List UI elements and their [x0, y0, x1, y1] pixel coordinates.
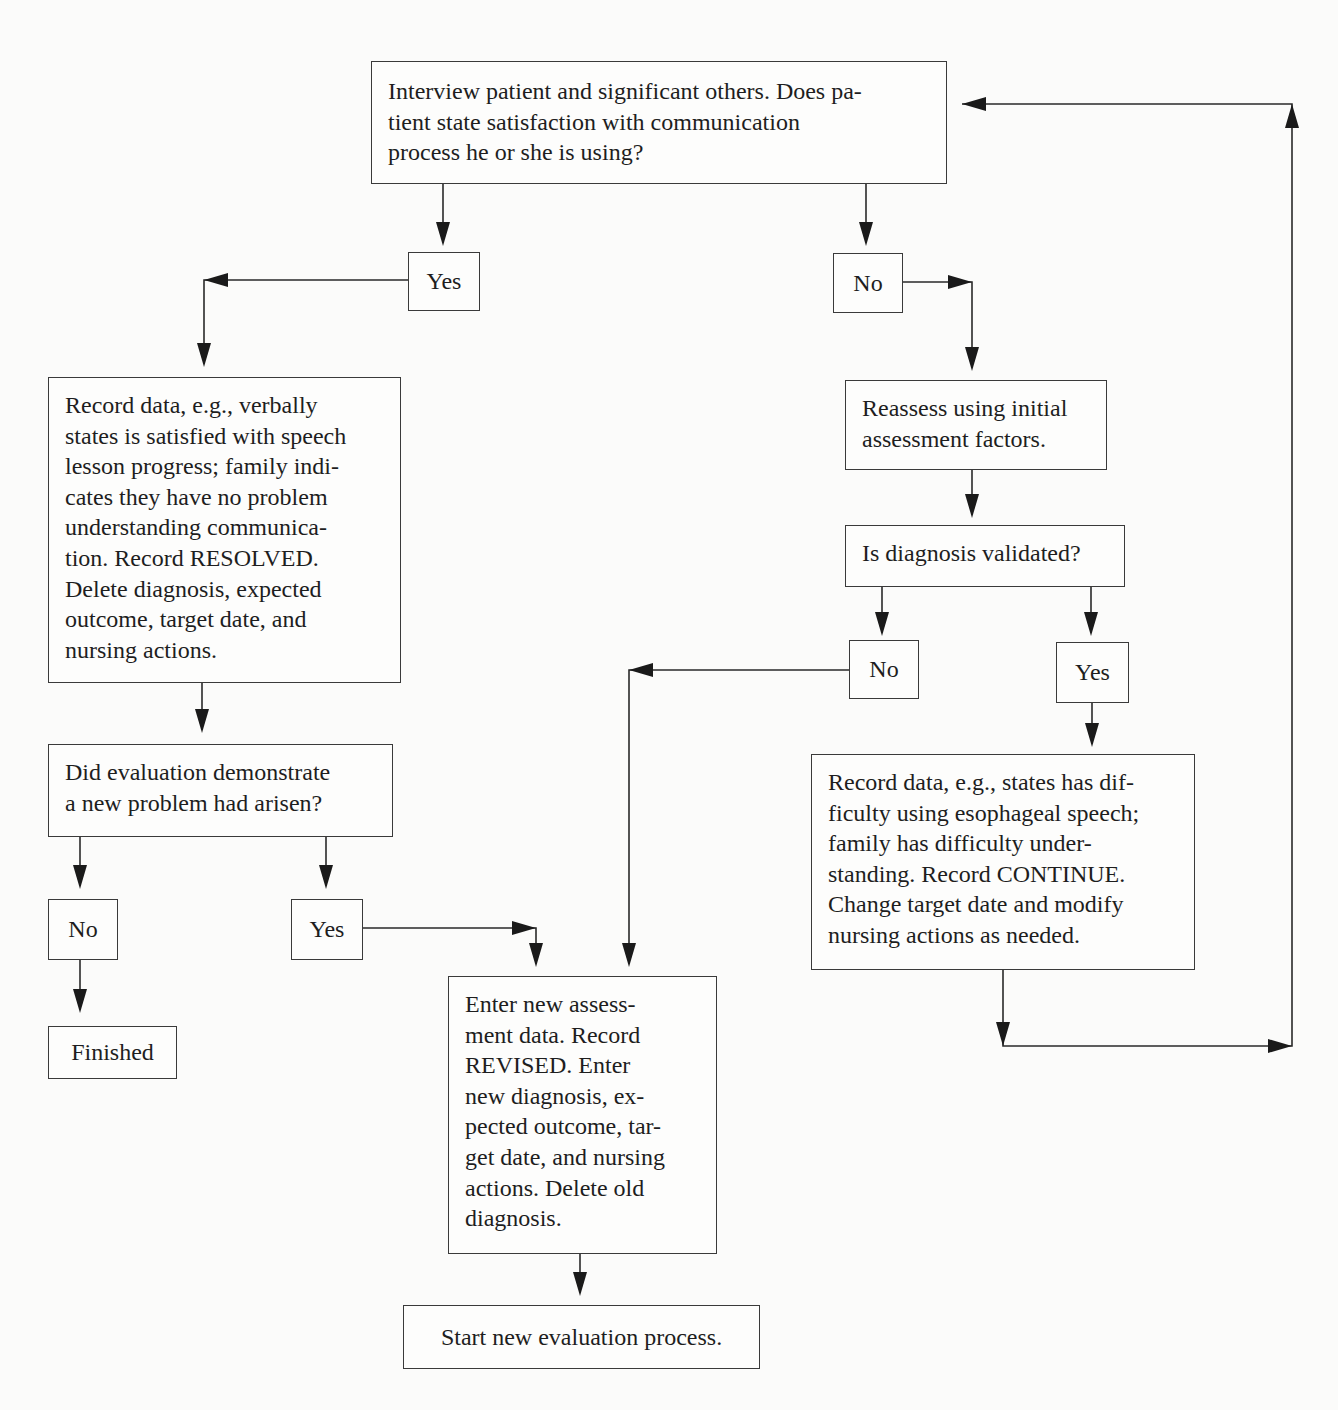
edge-new-problem-to-no [73, 837, 87, 889]
edge-new-problem-to-yes [319, 837, 333, 889]
node-finished: Finished [48, 1026, 177, 1079]
node-start-new-evaluation: Start new evaluation process. [403, 1305, 760, 1369]
edge-reassess-to-validated [965, 470, 979, 518]
node-interview-question: Interview patient and significant others… [371, 61, 947, 184]
node-yes-new-problem: Yes [291, 899, 363, 960]
node-yes-validated: Yes [1056, 642, 1129, 703]
edge-interview-to-yes [436, 184, 450, 246]
node-reassess: Reassess using initial assessment factor… [845, 380, 1107, 470]
edge-yes-to-record-revised [362, 921, 543, 967]
edge-validated-to-yes [1084, 587, 1098, 636]
node-record-continue: Record data, e.g., states has dif- ficul… [811, 754, 1195, 970]
node-record-revised: Enter new assess- ment data. Record REVI… [448, 976, 717, 1254]
edge-no-to-reassess [903, 275, 979, 371]
edge-record-resolved-to-new-problem [195, 683, 209, 733]
node-record-resolved: Record data, e.g., verbally states is sa… [48, 377, 401, 683]
edge-interview-to-no [859, 184, 873, 246]
node-no-satisfied: No [833, 253, 903, 313]
node-diagnosis-validated-question: Is diagnosis validated? [845, 525, 1125, 587]
node-yes-satisfied: Yes [408, 252, 480, 311]
edge-no-to-finished [73, 960, 87, 1013]
edge-yes-to-record-resolved [197, 273, 408, 367]
edge-yes-to-record-continue [1085, 703, 1099, 747]
edge-validated-to-no [875, 587, 889, 636]
node-no-validated: No [849, 640, 919, 699]
node-no-new-problem: No [48, 899, 118, 960]
edge-record-revised-to-start-new [573, 1254, 587, 1296]
node-new-problem-question: Did evaluation demonstrate a new problem… [48, 744, 393, 837]
